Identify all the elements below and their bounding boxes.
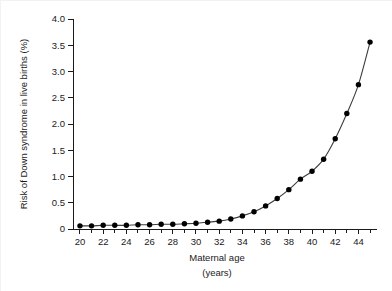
x-tick-label: 36: [260, 236, 271, 247]
x-tick-label: 24: [121, 236, 132, 247]
data-point: 32 years: 0.15%: [217, 218, 222, 223]
data-point: 27 years: 0.09%: [158, 222, 163, 227]
x-tick-label: 34: [237, 236, 248, 247]
data-point: 37 years: 0.58%: [275, 196, 280, 201]
data-point: 43 years: 2.2%: [344, 111, 349, 116]
y-tick-label: 3.0: [52, 66, 65, 77]
data-point: 24 years: 0.07%: [124, 223, 129, 228]
y-tick-label: 2.0: [52, 118, 65, 129]
data-point: 41 years: 1.33%: [321, 156, 326, 161]
y-tick-label: 2.5: [52, 92, 65, 103]
data-point: 25 years: 0.08%: [135, 222, 140, 227]
x-tick-label: 42: [330, 236, 341, 247]
data-point: 26 years: 0.08%: [147, 222, 152, 227]
data-point: 33 years: 0.19%: [228, 216, 233, 221]
data-point: 30 years: 0.11%: [193, 221, 198, 226]
x-tick-label: 44: [353, 236, 364, 247]
risk-vs-maternal-age-line-chart: 00.51.01.52.02.53.03.54.0 20222426283032…: [1, 1, 392, 291]
data-point: 42 years: 1.72%: [333, 136, 338, 141]
x-tick-label: 32: [214, 236, 225, 247]
data-point: 34 years: 0.25%: [240, 213, 245, 218]
x-axis-title: Maternal age: [189, 252, 244, 263]
y-tick-label: 1.5: [52, 145, 65, 156]
data-point: 31 years: 0.13%: [205, 219, 210, 224]
chart-figure: 00.51.01.52.02.53.03.54.0 20222426283032…: [0, 0, 392, 291]
x-tick-label: 30: [191, 236, 202, 247]
data-point: 38 years: 0.75%: [286, 187, 291, 192]
data-point: 36 years: 0.44%: [263, 203, 268, 208]
x-tick-label: 28: [167, 236, 178, 247]
data-point: 39 years: 0.95%: [298, 176, 303, 181]
y-tick-label: 4.0: [52, 13, 65, 24]
y-axis-title: Risk of Down syndrome in live births (%): [18, 39, 29, 210]
data-point: 45 years: 3.56%: [367, 39, 372, 44]
data-point: 28 years: 0.09%: [170, 222, 175, 227]
data-point: 21 years: 0.06%: [89, 223, 94, 228]
data-point: 20 years: 0.06%: [77, 223, 82, 228]
data-point: 23 years: 0.07%: [112, 223, 117, 228]
y-tick-label: 3.5: [52, 40, 65, 51]
x-tick-label: 22: [98, 236, 109, 247]
data-point: 44 years: 2.75%: [356, 82, 361, 87]
data-point: 22 years: 0.07%: [100, 223, 105, 228]
data-point: 40 years: 1.1%: [309, 169, 314, 174]
x-tick-label: 26: [144, 236, 155, 247]
data-point: 29 years: 0.1%: [182, 221, 187, 226]
y-tick-label: 1.0: [52, 171, 65, 182]
data-point: 35 years: 0.33%: [251, 209, 256, 214]
y-tick-label: 0.5: [52, 197, 65, 208]
x-tick-label: 40: [307, 236, 318, 247]
x-axis-title-units: (years): [202, 267, 232, 278]
y-tick-label: 0: [60, 223, 65, 234]
x-tick-label: 38: [284, 236, 295, 247]
x-tick-label: 20: [75, 236, 86, 247]
